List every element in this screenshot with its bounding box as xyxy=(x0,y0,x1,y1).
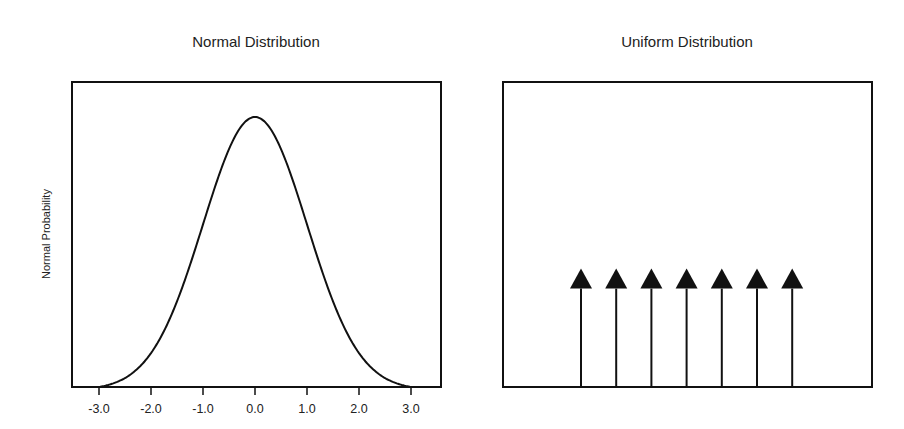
uniform-chart-title: Uniform Distribution xyxy=(621,33,753,50)
stem-triangle-marker xyxy=(711,269,733,289)
stem-triangle-marker xyxy=(640,269,662,289)
x-tick-label: -1.0 xyxy=(192,402,214,416)
stem-triangle-marker xyxy=(676,269,698,289)
normal-x-axis: -3.0-2.0-1.00.01.02.03.0 xyxy=(88,388,420,416)
normal-y-axis-label: Normal Probability xyxy=(40,189,52,279)
stem-triangle-marker xyxy=(605,269,627,289)
x-tick-label: 0.0 xyxy=(246,402,263,416)
stem-triangle-marker xyxy=(570,269,592,289)
stem-triangle-marker xyxy=(781,269,803,289)
uniform-chart: Uniform Distribution xyxy=(503,33,872,387)
stem-triangle-marker xyxy=(746,269,768,289)
normal-plot-frame xyxy=(72,82,441,387)
normal-curve-line xyxy=(99,117,411,387)
x-tick-label: -2.0 xyxy=(140,402,162,416)
x-tick-label: 2.0 xyxy=(350,402,367,416)
x-tick-label: 3.0 xyxy=(402,402,419,416)
x-tick-label: 1.0 xyxy=(298,402,315,416)
x-tick-label: -3.0 xyxy=(88,402,110,416)
normal-chart-title: Normal Distribution xyxy=(192,33,320,50)
uniform-stems xyxy=(570,269,803,387)
normal-chart: Normal Distribution Normal Probability -… xyxy=(40,33,441,416)
charts-canvas: Normal Distribution Normal Probability -… xyxy=(0,0,904,429)
